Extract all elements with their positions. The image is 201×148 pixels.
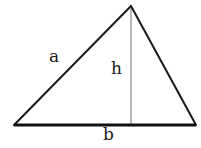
triangle-figure: a h b	[0, 0, 201, 148]
triangle-diagram-svg	[0, 0, 201, 148]
triangle-right-side	[131, 6, 196, 125]
label-height-h: h	[111, 60, 122, 77]
label-base-b: b	[103, 126, 114, 143]
label-side-a: a	[49, 48, 59, 65]
